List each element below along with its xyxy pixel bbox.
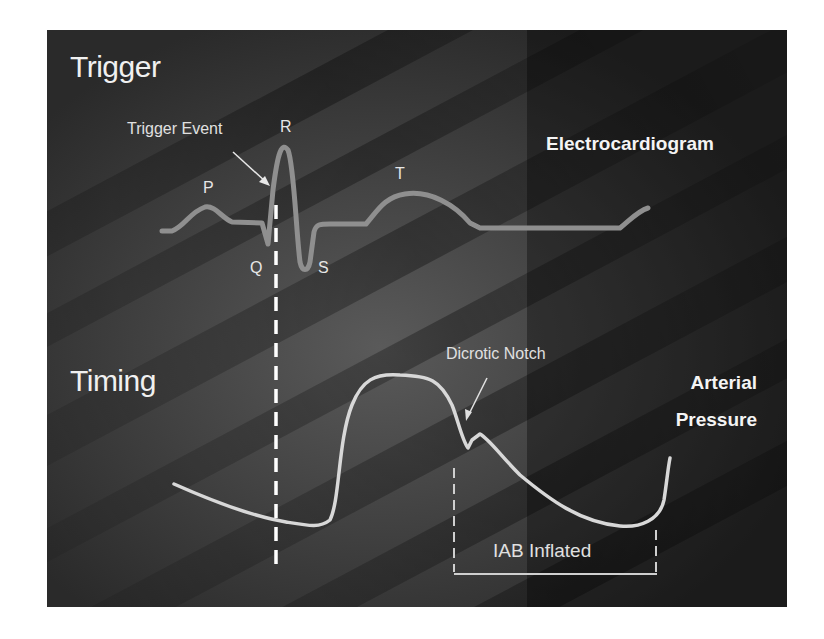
iab-inflated-label: IAB Inflated <box>493 541 591 560</box>
arterial-pressure-trace <box>174 375 670 527</box>
s-wave-label: S <box>318 260 329 276</box>
waveform-diagram <box>0 0 824 639</box>
dicrotic-notch-label: Dicrotic Notch <box>446 346 546 362</box>
r-wave-label: R <box>280 119 292 135</box>
trigger-arrow-icon <box>233 152 270 186</box>
ecg-trace <box>162 147 648 269</box>
q-wave-label: Q <box>250 260 262 276</box>
pressure-label: Pressure <box>676 410 757 429</box>
trigger-section-title: Trigger <box>70 52 160 82</box>
t-wave-label: T <box>395 166 405 182</box>
arterial-label: Arterial <box>690 373 757 392</box>
dicrotic-notch-arrow-icon <box>465 378 487 421</box>
timing-section-title: Timing <box>70 366 156 396</box>
electrocardiogram-label: Electrocardiogram <box>546 134 714 153</box>
trigger-event-label: Trigger Event <box>127 121 222 137</box>
p-wave-label: P <box>203 180 214 196</box>
